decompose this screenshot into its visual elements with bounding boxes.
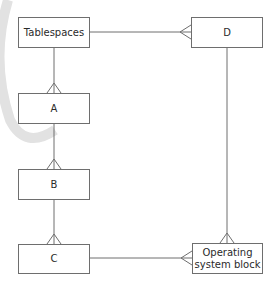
entity-label: B xyxy=(51,179,58,191)
entity-d: D xyxy=(191,17,263,48)
entity-tablespaces: Tablespaces xyxy=(18,17,90,48)
connector-c-osblock xyxy=(89,251,192,265)
entity-b: B xyxy=(18,169,90,200)
connector-b-c xyxy=(47,199,61,244)
connector-tablespaces-a xyxy=(47,47,61,93)
entity-a: A xyxy=(18,93,90,124)
connector-tablespaces-d xyxy=(89,25,191,39)
connector-d-osblock xyxy=(220,47,234,243)
entity-operating-system-block: Operating system block xyxy=(192,243,263,274)
entity-c: C xyxy=(18,244,90,274)
entity-label: C xyxy=(51,253,58,265)
entity-label: Operating system block xyxy=(195,247,261,271)
entity-label: A xyxy=(51,103,58,115)
entity-label: Tablespaces xyxy=(24,27,84,39)
entity-label: D xyxy=(223,27,231,39)
